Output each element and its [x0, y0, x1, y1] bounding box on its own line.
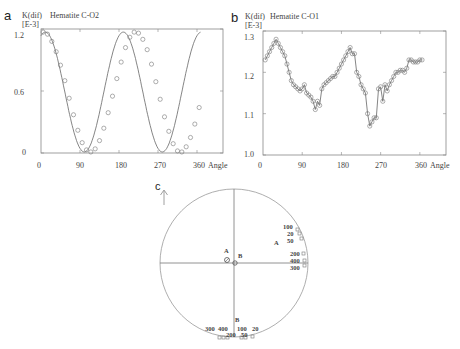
label-b-bottom: B	[235, 316, 239, 323]
label-bottom-50: 50	[241, 331, 248, 338]
panel-a-fit-curve	[41, 32, 201, 152]
square-right-100	[296, 228, 299, 231]
figure-graphics	[0, 0, 460, 349]
square-right-50	[300, 237, 303, 240]
panel-a-frame	[41, 29, 223, 153]
square-right-200	[302, 252, 305, 255]
label-right-300: 300	[290, 264, 300, 271]
square-right-400	[303, 259, 306, 262]
panel-b-data-line	[265, 39, 422, 126]
label-a-right: A	[274, 239, 279, 246]
panel-c-letter: c	[155, 180, 161, 192]
label-a-center: A	[224, 247, 229, 254]
label-bottom-20: 20	[252, 325, 259, 332]
square-right-20	[298, 232, 301, 235]
label-right-50: 50	[287, 237, 294, 244]
label-right-400: 400	[290, 257, 300, 264]
panel-b-frame	[263, 31, 446, 155]
label-bottom-300: 300	[205, 325, 215, 332]
square-bottom-300	[218, 336, 221, 339]
panel-b-axis-ticks	[263, 31, 446, 155]
label-bottom-200: 200	[226, 331, 236, 338]
panel-b-data-points	[263, 37, 424, 128]
label-b-center: B	[238, 252, 242, 259]
square-bottom-20	[251, 335, 254, 338]
label-right-20: 20	[287, 230, 294, 237]
square-right-300	[303, 264, 306, 267]
center-marker-a-slash	[225, 258, 229, 262]
panel-a-axis-ticks	[41, 29, 223, 153]
label-right-200: 200	[290, 250, 300, 257]
label-right-100: 100	[283, 223, 293, 230]
